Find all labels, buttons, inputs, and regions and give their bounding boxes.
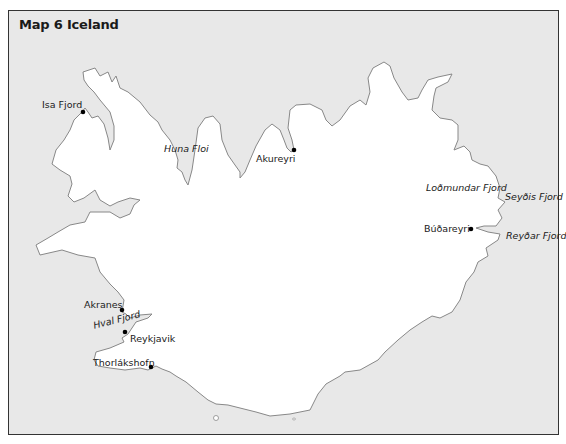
label-huna-floi: Huna Floi — [164, 143, 209, 154]
label-reydar-fjord: Reyðar Fjord — [506, 230, 566, 241]
label-isa-fjord: Isa Fjord — [42, 99, 82, 110]
island — [214, 416, 219, 421]
map-title: Map 6 Iceland — [19, 17, 119, 32]
label-akureyri: Akureyri — [256, 153, 295, 164]
label-budareyri: Búðareyri — [424, 223, 470, 234]
town-dot-akureyri — [292, 148, 297, 153]
town-dot-reykjavik — [123, 330, 128, 335]
label-thorlakshofn: Thorlákshofn — [93, 357, 155, 368]
label-lodmundar-fjord: Loðmundar Fjord — [426, 182, 507, 193]
label-reykjavik: Reykjavik — [130, 333, 175, 344]
island — [293, 418, 296, 420]
label-akranes: Akranes — [84, 299, 123, 310]
label-seydis-fjord: Seyðis Fjord — [505, 191, 563, 202]
town-dot-isa-fjord — [81, 110, 86, 115]
